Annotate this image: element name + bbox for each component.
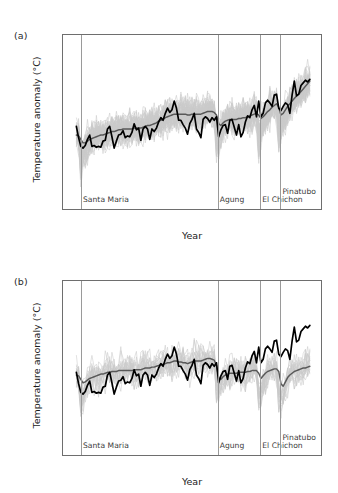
a-x-minor-tick (278, 209, 279, 210)
b-x-tick (301, 455, 302, 456)
a-y-minor-tick (321, 114, 322, 115)
b-x-minor-tick (132, 455, 133, 456)
a-x-minor-tick (177, 209, 178, 210)
b-y-minor-tick (62, 351, 63, 352)
figure-temperature-attribution: (a) Temperature anomaly (°C) Year −1.0−0… (0, 0, 338, 493)
volcano-line-santa-maria (81, 281, 82, 455)
a-x-minor-tick (200, 34, 201, 35)
a-y-minor-tick (62, 88, 63, 89)
b-y-minor-tick (321, 351, 322, 352)
b-y-tick (62, 325, 63, 326)
a-x-minor-tick (267, 209, 268, 210)
b-x-minor-tick (88, 280, 89, 281)
b-x-minor-tick (99, 455, 100, 456)
panel-b-y-axis-title: Temperature anomaly (°C) (31, 278, 42, 454)
a-x-minor-tick (88, 34, 89, 35)
a-x-tick (76, 209, 77, 210)
a-x-minor-tick (233, 34, 234, 35)
b-x-minor-tick (189, 280, 190, 281)
b-y-minor-tick (62, 334, 63, 335)
b-x-minor-tick (200, 455, 201, 456)
b-x-minor-tick (289, 455, 290, 456)
volcano-label-santa-maria: Santa Maria (83, 195, 129, 204)
a-y-minor-tick (62, 61, 63, 62)
b-y-tick (321, 325, 322, 326)
a-x-tick (121, 34, 122, 35)
b-y-minor-tick (321, 299, 322, 300)
b-x-minor-tick (245, 280, 246, 281)
volcano-line-el-chichon (260, 281, 261, 455)
a-x-tick (211, 34, 212, 35)
b-y-minor-tick (62, 395, 63, 396)
a-y-minor-tick (62, 132, 63, 133)
a-x-minor-tick (177, 34, 178, 35)
a-x-tick (76, 34, 77, 35)
panel-b-label: (b) (14, 276, 28, 287)
a-x-tick (166, 209, 167, 210)
b-x-minor-tick (177, 280, 178, 281)
volcano-line-pinatubo (280, 281, 281, 455)
a-x-minor-tick (222, 209, 223, 210)
panel-a-plot-area: −1.0−0.50.00.51.019001920194019601980200… (62, 34, 322, 210)
b-x-minor-tick (177, 455, 178, 456)
a-x-minor-tick (189, 209, 190, 210)
b-y-tick (321, 369, 322, 370)
b-x-minor-tick (155, 455, 156, 456)
a-y-tick (321, 123, 322, 124)
a-x-minor-tick (289, 34, 290, 35)
b-y-minor-tick (62, 378, 63, 379)
a-x-tick (256, 209, 257, 210)
a-y-minor-tick (62, 193, 63, 194)
panel-a-y-axis-title: Temperature anomaly (°C) (31, 32, 42, 208)
a-y-minor-tick (321, 132, 322, 133)
a-y-minor-tick (321, 193, 322, 194)
a-x-minor-tick (155, 34, 156, 35)
a-y-tick (62, 167, 63, 168)
b-y-minor-tick (321, 290, 322, 291)
b-y-minor-tick (62, 431, 63, 432)
b-x-minor-tick (155, 280, 156, 281)
volcano-line-agung (218, 35, 219, 209)
b-x-tick (121, 455, 122, 456)
b-x-minor-tick (267, 280, 268, 281)
a-y-minor-tick (62, 44, 63, 45)
a-y-minor-tick (62, 202, 63, 203)
b-y-minor-tick (62, 299, 63, 300)
panel-a-x-axis-title: Year (182, 230, 202, 241)
b-x-minor-tick (267, 455, 268, 456)
b-y-tick (62, 281, 63, 282)
a-y-tick (62, 79, 63, 80)
a-x-minor-tick (267, 34, 268, 35)
a-x-minor-tick (110, 209, 111, 210)
b-y-minor-tick (321, 378, 322, 379)
b-x-minor-tick (189, 455, 190, 456)
b-y-minor-tick (62, 290, 63, 291)
a-y-minor-tick (321, 202, 322, 203)
volcano-label-el-chichon: El Chichon (262, 195, 303, 204)
a-y-minor-tick (321, 149, 322, 150)
b-x-minor-tick (233, 280, 234, 281)
panel-b-curves (63, 281, 321, 455)
a-x-minor-tick (245, 34, 246, 35)
b-x-minor-tick (222, 455, 223, 456)
b-y-minor-tick (321, 387, 322, 388)
b-x-tick (211, 280, 212, 281)
b-y-tick (321, 413, 322, 414)
a-y-minor-tick (62, 105, 63, 106)
a-y-minor-tick (62, 185, 63, 186)
a-y-minor-tick (321, 105, 322, 106)
a-x-minor-tick (189, 34, 190, 35)
b-y-minor-tick (321, 404, 322, 405)
b-x-minor-tick (132, 280, 133, 281)
a-x-minor-tick (99, 34, 100, 35)
b-y-minor-tick (321, 439, 322, 440)
panel-b-plot-area: −1.0−0.50.00.51.019001920194019601980200… (62, 280, 322, 456)
b-x-tick (256, 280, 257, 281)
a-x-minor-tick (88, 209, 89, 210)
b-y-minor-tick (321, 448, 322, 449)
b-x-tick (256, 455, 257, 456)
b-y-minor-tick (321, 431, 322, 432)
b-x-minor-tick (278, 280, 279, 281)
b-x-tick (76, 280, 77, 281)
a-x-minor-tick (222, 34, 223, 35)
